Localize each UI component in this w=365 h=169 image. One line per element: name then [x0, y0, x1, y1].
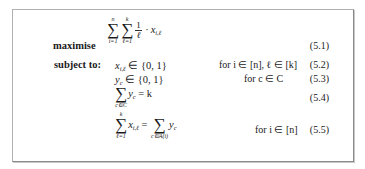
- condition-5-3: for c ∈ C: [244, 73, 283, 84]
- equation-number-5-5: (5.5): [310, 124, 329, 135]
- fraction: 1ℓ: [135, 21, 142, 40]
- equation-number-5-4: (5.4): [310, 92, 329, 103]
- objective-expression: n ∑ i=1 k ∑ ℓ=1 1ℓ · xi,ℓ: [106, 16, 161, 45]
- sum-over-c: ∑ c∈C: [115, 80, 127, 109]
- equation-number-5-2: (5.2): [310, 59, 329, 70]
- sum-over-l: k ∑ ℓ=1: [115, 111, 127, 140]
- sum-over-c-in-A: ∑ c∈A(i): [151, 111, 168, 140]
- outer-sum: n ∑ i=1: [107, 16, 119, 45]
- condition-5-5: for i ∈ [n]: [255, 124, 298, 135]
- equation-number-5-3: (5.3): [310, 73, 329, 84]
- maximise-keyword: maximise: [53, 40, 96, 51]
- optimization-problem-box: maximise n ∑ i=1 k ∑ ℓ=1 1ℓ · xi,ℓ (5.1)…: [12, 9, 354, 162]
- subject-to-keyword: subject to:: [54, 59, 101, 70]
- constraint-5-2: xi,ℓ ∈ {0, 1}: [115, 59, 167, 72]
- inner-sum: k ∑ ℓ=1: [121, 16, 133, 45]
- constraint-5-5: k ∑ ℓ=1 xi,ℓ = ∑ c∈A(i) yc: [114, 111, 177, 140]
- constraint-5-4: ∑ c∈C yc = k: [114, 80, 152, 109]
- equation-number-5-1: (5.1): [310, 40, 329, 51]
- condition-5-2: for i ∈ [n], ℓ ∈ [k]: [219, 59, 297, 70]
